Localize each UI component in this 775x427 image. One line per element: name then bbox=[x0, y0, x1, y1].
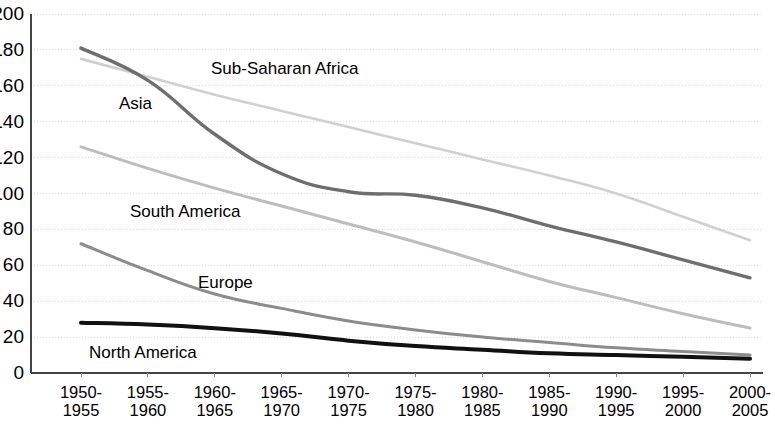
y-tick-label: 200 bbox=[0, 4, 24, 23]
y-tick-label: 40 bbox=[3, 291, 24, 310]
y-tick-label: 60 bbox=[3, 255, 24, 274]
series-line-europe bbox=[81, 244, 750, 355]
x-tick-label-line2: 2005 bbox=[705, 401, 775, 419]
series-label-sub-saharan-africa: Sub-Saharan Africa bbox=[211, 60, 358, 78]
y-tick-label: 180 bbox=[0, 40, 24, 59]
y-tick-label: 120 bbox=[0, 148, 24, 167]
series-label-asia: Asia bbox=[119, 95, 152, 113]
y-tick-label: 140 bbox=[0, 112, 24, 131]
chart-plot-area bbox=[0, 0, 775, 427]
x-tick-label-line1: 2000- bbox=[705, 383, 775, 401]
series-label-europe: Europe bbox=[198, 274, 253, 292]
y-tick-label: 0 bbox=[13, 363, 24, 382]
series-label-south-america: South America bbox=[130, 203, 241, 221]
y-tick-label: 20 bbox=[3, 327, 24, 346]
line-chart: 200180160140120100806040200 1950-1955195… bbox=[0, 0, 775, 427]
series-label-north-america: North America bbox=[89, 344, 197, 362]
y-tick-label: 100 bbox=[0, 184, 24, 203]
y-tick-label: 80 bbox=[3, 219, 24, 238]
x-tick-label: 2000-2005 bbox=[705, 383, 775, 419]
y-tick-label: 160 bbox=[0, 76, 24, 95]
